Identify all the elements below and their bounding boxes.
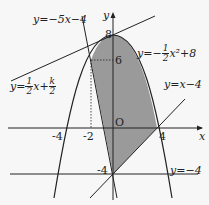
math-diagram: y x O -4 -2 4 8 6 -4 y=−5x−4 y=−12x²+8 y…: [0, 0, 209, 205]
tick-y-6: 6: [115, 55, 122, 66]
tick-x-neg2: -2: [83, 131, 94, 142]
label-line-horiz: y=−4: [170, 165, 202, 176]
y-axis-arrow-icon: [111, 12, 116, 18]
x-axis-label: x: [199, 131, 205, 142]
tick-y-8: 8: [105, 29, 112, 40]
label-line-steep: y=−5x−4: [33, 14, 87, 25]
tick-x-4: 4: [159, 131, 166, 142]
tick-x-neg4: -4: [52, 131, 63, 142]
label-parabola: y=−12x²+8: [137, 44, 196, 63]
y-axis-label: y: [103, 10, 109, 21]
origin-label: O: [115, 117, 124, 128]
label-line-diag: y=x−4: [164, 79, 202, 90]
label-line-k: y=12x+k2: [10, 77, 56, 96]
tick-y-neg4: -4: [97, 165, 108, 176]
